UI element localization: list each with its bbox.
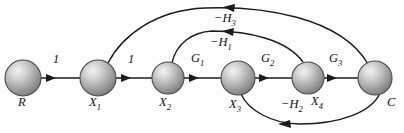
node-c[interactable] [358,61,392,95]
node-label-x2: X2 [159,96,171,111]
node-x3[interactable] [221,61,255,95]
arrowhead-x1-x2 [121,74,131,82]
arrowhead-x3-x4 [259,74,269,82]
node-x1[interactable] [80,60,116,96]
arrowhead-x2-x3 [189,74,199,82]
node-label-c: C [387,96,395,109]
signal-flow-graph-figure: R X1 X2 X3 X4 C 1 1 G1 G2 G3 −H3 −H1 −H2 [0,0,404,133]
node-x2[interactable] [152,62,184,94]
node-label-x3: X3 [229,98,241,113]
node-label-r: R [18,96,26,109]
node-label-x4: X4 [311,95,323,110]
edge-label-h1: −H1 [210,36,232,51]
node-x4[interactable] [292,62,324,94]
edge-label-h3: −H3 [214,12,236,27]
edge-label-x2-x3: G1 [191,52,204,67]
edge-label-x4-c: G3 [329,52,342,67]
node-label-x1: X1 [89,96,101,111]
arrowhead-r-x1 [46,74,56,82]
node-r[interactable] [5,60,41,96]
arrowhead-x4-c [327,74,337,82]
edge-label-x1-x2: 1 [128,53,134,66]
edge-label-h2: −H2 [281,98,303,113]
edge-label-r-x1: 1 [53,53,59,66]
edge-label-x3-x4: G2 [261,52,274,67]
